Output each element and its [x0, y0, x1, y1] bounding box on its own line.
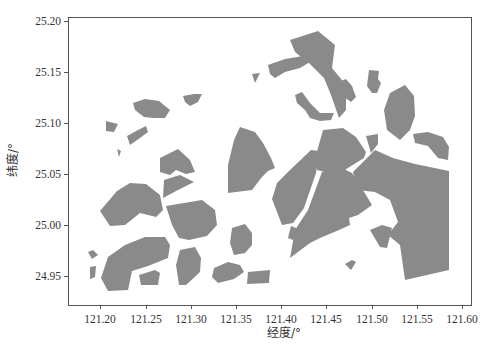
y-tick-label: 25.15: [35, 66, 61, 78]
y-tick-label: 25.10: [35, 117, 61, 129]
y-tick-label: 25.00: [35, 219, 61, 231]
x-tick-label: 121.35: [220, 313, 252, 325]
land-region: [247, 270, 270, 284]
y-tick-label: 25.05: [35, 168, 61, 180]
x-tick-label: 121.40: [265, 313, 297, 325]
x-tick-label: 121.50: [356, 313, 388, 325]
x-tick-label: 121.45: [310, 313, 342, 325]
x-axis-label: 经度/°: [267, 325, 301, 340]
x-tick-label: 121.55: [401, 313, 433, 325]
x-tick-label: 121.30: [175, 313, 207, 325]
map-chart: 121.20121.25121.30121.35121.40121.45121.…: [0, 0, 492, 352]
x-tick-label: 121.25: [130, 313, 162, 325]
x-tick-label: 121.20: [84, 313, 116, 325]
y-tick-label: 24.95: [35, 270, 61, 282]
y-tick-label: 25.20: [35, 15, 61, 27]
y-axis-label: 纬度/°: [5, 143, 20, 177]
x-tick-label: 121.60: [446, 313, 478, 325]
